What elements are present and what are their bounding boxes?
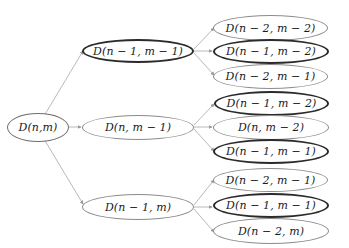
node-l1-0: D(n − 1, m − 1) [82,39,194,63]
node-l2-3: D(n − 1, m − 2) [214,91,329,116]
node-label: D(n − 2, m − 1) [226,71,316,82]
node-label: D(n − 2, m − 2) [226,23,316,34]
edge-l1-1-to-l2-5 [194,129,214,151]
node-label: D(n − 2, m) [238,226,304,237]
edge-root-to-l1-2 [44,139,83,204]
node-l2-2: D(n − 2, m − 1) [213,64,328,89]
recursion-tree-diagram: D(n,m) D(n − 1, m − 1) D(n, m − 1) D(n −… [0,0,349,248]
node-label: D(n, m − 2) [238,122,304,133]
node-l1-2: D(n − 1, m) [82,194,194,220]
node-l2-6: D(n − 2, m − 1) [213,168,328,192]
node-label: D(n − 1, m − 1) [226,146,316,157]
node-label: D(n − 1, m − 2) [227,98,317,109]
node-label: D(n,m) [18,122,57,133]
node-l1-1: D(n, m − 1) [82,115,194,140]
node-l2-0: D(n − 2, m − 2) [213,15,328,41]
edge-l1-2-to-l2-8 [194,209,214,232]
node-label: D(n − 2, m − 1) [226,175,316,186]
node-l2-8: D(n − 2, m) [213,218,329,244]
node-label: D(n − 1, m) [105,202,171,213]
node-l2-1: D(n − 1, m − 2) [213,39,329,64]
node-root: D(n,m) [7,113,69,142]
edge-l1-2-to-l2-6 [194,180,214,205]
node-l2-5: D(n − 1, m − 1) [213,139,329,164]
node-label: D(n − 1, m − 1) [93,46,183,57]
node-label: D(n − 1, m − 1) [226,200,316,211]
edge-l1-0-to-l2-2 [194,53,214,75]
node-l2-4: D(n, m − 2) [213,115,329,140]
node-label: D(n, m − 1) [105,122,171,133]
node-l2-7: D(n − 1, m − 1) [213,193,329,218]
edge-l1-0-to-l2-0 [194,28,214,49]
edge-l1-1-to-l2-3 [194,104,214,125]
edge-root-to-l1-0 [44,51,83,116]
node-label: D(n − 1, m − 2) [226,46,316,57]
